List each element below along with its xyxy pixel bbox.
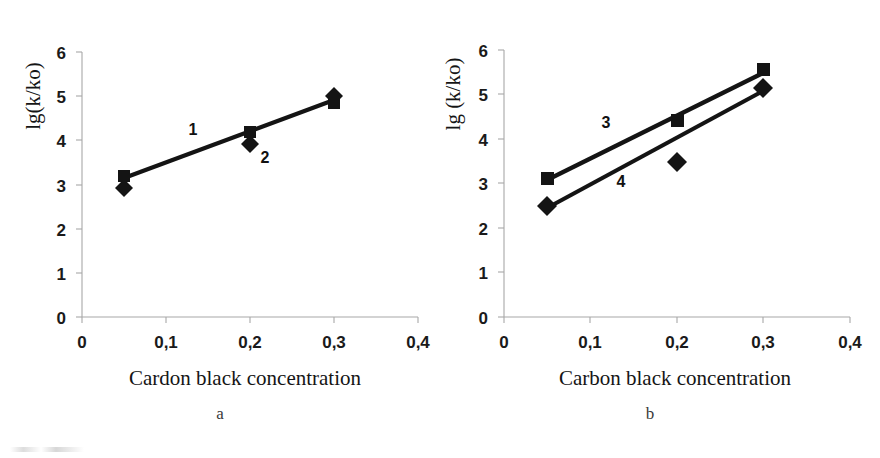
data-marker-square xyxy=(757,63,770,76)
series-label-3: 3 xyxy=(602,114,611,131)
data-marker-diamond xyxy=(667,152,687,172)
series-label-4: 4 xyxy=(617,173,626,190)
y-axis-title-b: lg (k/ko) xyxy=(441,58,465,131)
chart-a-plot-area: 1 2 xyxy=(115,87,343,197)
x-tick-label-0-b: 0 xyxy=(499,333,508,352)
y-tick-label-1-b: 1 xyxy=(479,264,488,283)
trend-line-series-4 xyxy=(547,91,763,208)
x-tick-label-1-b: 0,1 xyxy=(578,333,602,352)
y-tick-label-0-b: 0 xyxy=(479,309,488,328)
panel-caption-a: a xyxy=(0,404,440,424)
data-marker-square xyxy=(671,114,684,127)
figure-two-panel-chart: 6 5 4 3 2 1 0 0 0,1 0,2 0,3 0,4 lg(k/ko)… xyxy=(0,0,880,458)
chart-a-canvas: 6 5 4 3 2 1 0 0 0,1 0,2 0,3 0,4 lg(k/ko)… xyxy=(0,0,440,400)
x-tick-label-3-a: 0,3 xyxy=(322,333,346,352)
x-tick-label-1-a: 0,1 xyxy=(154,333,178,352)
x-tick-marks-a xyxy=(82,317,418,323)
x-axis-title-b: Carbon black concentration xyxy=(559,366,792,390)
y-tick-label-5-b: 5 xyxy=(479,86,488,105)
data-marker-diamond xyxy=(537,196,557,216)
y-tick-label-6-a: 6 xyxy=(57,44,66,63)
y-axis-title-a: lg(k/ko) xyxy=(21,62,45,130)
data-marker-diamond xyxy=(241,135,259,153)
y-tick-marks-b xyxy=(498,50,504,317)
y-tick-label-5-a: 5 xyxy=(57,88,66,107)
y-tick-label-2-a: 2 xyxy=(57,221,66,240)
series-label-1: 1 xyxy=(189,121,198,138)
x-tick-marks-b xyxy=(504,317,850,323)
y-tick-label-4-a: 4 xyxy=(57,132,67,151)
x-tick-label-2-a: 0,2 xyxy=(238,333,262,352)
panel-a: 6 5 4 3 2 1 0 0 0,1 0,2 0,3 0,4 lg(k/ko)… xyxy=(0,0,440,458)
y-tick-label-6-b: 6 xyxy=(479,42,488,61)
chart-b-canvas: 6 5 4 3 2 1 0 0 0,1 0,2 0,3 0,4 lg (k/ko… xyxy=(420,0,880,400)
series-label-2: 2 xyxy=(261,149,270,166)
x-tick-label-4-b: 0,4 xyxy=(838,333,862,352)
x-tick-label-2-b: 0,2 xyxy=(665,333,689,352)
chart-a-axes xyxy=(82,52,418,317)
y-tick-label-3-b: 3 xyxy=(479,175,488,194)
panel-caption-b: b xyxy=(420,404,880,424)
data-marker-square xyxy=(541,172,554,185)
x-tick-label-3-b: 0,3 xyxy=(751,333,775,352)
data-marker-diamond xyxy=(115,179,133,197)
y-tick-marks-a xyxy=(76,52,82,317)
chart-b-plot-area: 3 4 xyxy=(537,63,773,216)
trend-line-a xyxy=(124,100,334,178)
scan-edge-artifact xyxy=(10,447,84,452)
panel-b: 6 5 4 3 2 1 0 0 0,1 0,2 0,3 0,4 lg (k/ko… xyxy=(420,0,880,458)
y-tick-label-3-a: 3 xyxy=(57,177,66,196)
trend-line-series-3 xyxy=(547,73,763,180)
y-tick-label-1-a: 1 xyxy=(57,265,66,284)
x-axis-title-a: Cardon black concentration xyxy=(129,366,362,390)
chart-b-axes xyxy=(504,50,850,317)
y-tick-label-2-b: 2 xyxy=(479,220,488,239)
y-tick-label-0-a: 0 xyxy=(57,309,66,328)
x-tick-label-0-a: 0 xyxy=(77,333,86,352)
y-tick-label-4-b: 4 xyxy=(479,131,489,150)
